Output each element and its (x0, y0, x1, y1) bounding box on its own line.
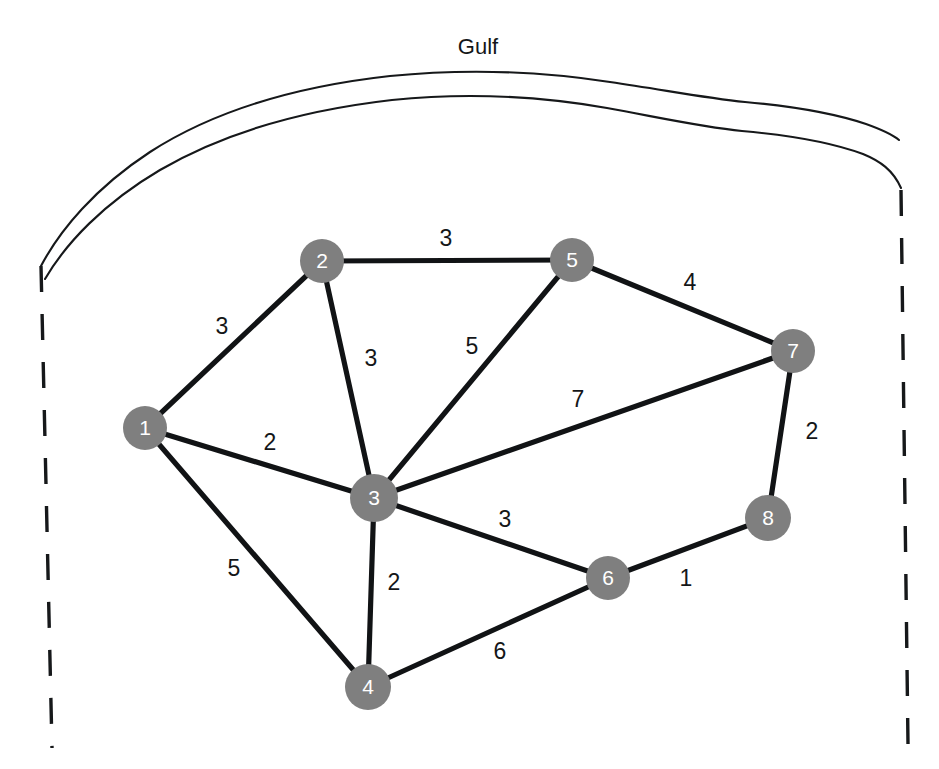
graph-edge-7-8[interactable] (768, 351, 793, 518)
node-circle-2[interactable] (300, 239, 344, 283)
edge-weight-layer: 3253357326412 (216, 225, 819, 664)
edge-weight-1-4: 5 (228, 555, 241, 581)
graph-node-6[interactable]: 6 (586, 556, 630, 600)
edge-weight-1-2: 3 (216, 313, 229, 339)
edge-weight-3-6: 3 (499, 506, 512, 532)
edge-weight-5-7: 4 (684, 269, 697, 295)
graph-node-1[interactable]: 1 (123, 406, 167, 450)
edge-weight-1-3: 2 (264, 429, 277, 455)
graph-edge-1-4[interactable] (145, 428, 368, 687)
graph-edge-1-2[interactable] (145, 261, 322, 428)
node-circle-5[interactable] (550, 238, 594, 282)
node-circle-4[interactable] (345, 664, 391, 710)
graph-edge-2-5[interactable] (322, 260, 572, 261)
graph-edge-3-4[interactable] (368, 498, 374, 687)
graph-node-7[interactable]: 7 (771, 329, 815, 373)
coastline-group (41, 72, 901, 279)
edge-weight-2-3: 3 (365, 345, 378, 371)
node-circle-1[interactable] (123, 406, 167, 450)
right-dashed-border (901, 190, 908, 744)
graph-edge-layer (145, 260, 793, 687)
map-canvas: Gulf 12345678 3253357326412 (0, 0, 939, 769)
edge-weight-3-7: 7 (572, 386, 585, 412)
graph-node-3[interactable]: 3 (350, 474, 398, 522)
figure-title-gulf: Gulf (458, 34, 499, 59)
graph-edge-3-6[interactable] (374, 498, 608, 578)
edge-weight-3-4: 2 (388, 569, 401, 595)
edge-weight-4-6: 6 (494, 638, 507, 664)
graph-node-2[interactable]: 2 (300, 239, 344, 283)
graph-node-5[interactable]: 5 (550, 238, 594, 282)
coastline-outer (41, 72, 899, 266)
graph-edge-4-6[interactable] (368, 578, 608, 687)
graph-edge-2-3[interactable] (322, 261, 374, 498)
node-circle-7[interactable] (771, 329, 815, 373)
graph-node-4[interactable]: 4 (345, 664, 391, 710)
graph-node-8[interactable]: 8 (745, 495, 791, 541)
graph-edge-5-7[interactable] (572, 260, 793, 351)
node-circle-3[interactable] (350, 474, 398, 522)
coastline-inner (45, 96, 901, 279)
left-dashed-border (41, 266, 52, 748)
node-circle-6[interactable] (586, 556, 630, 600)
gulf-network-map: Gulf 12345678 3253357326412 (0, 0, 939, 769)
edge-weight-7-8: 2 (806, 418, 819, 444)
edge-weight-3-5: 5 (466, 333, 479, 359)
edge-weight-6-8: 1 (680, 565, 693, 591)
edge-weight-2-5: 3 (440, 225, 453, 251)
graph-edge-1-3[interactable] (145, 428, 374, 498)
node-circle-8[interactable] (745, 495, 791, 541)
